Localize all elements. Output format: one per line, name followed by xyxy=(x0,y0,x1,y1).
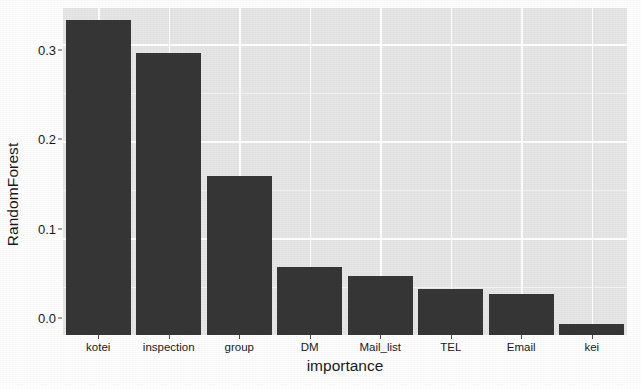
x-tick-mark xyxy=(521,335,522,339)
x-tick-label: Mail_list xyxy=(359,341,401,353)
x-tick-label: kei xyxy=(584,341,599,353)
x-tick-label: TEL xyxy=(440,341,461,353)
gridline-major-horizontal xyxy=(63,44,627,45)
bar xyxy=(66,20,131,335)
bar xyxy=(418,289,483,335)
x-tick-mark xyxy=(169,335,170,339)
y-axis-title: RandomForest xyxy=(0,0,26,389)
bar xyxy=(489,294,554,335)
y-axis-tick-group: 0.0 0.1 0.2 0.3 xyxy=(26,0,62,389)
x-tick-mark xyxy=(592,335,593,339)
x-tick-label: DM xyxy=(301,341,319,353)
x-tick-mark xyxy=(380,335,381,339)
gridline-major-vertical xyxy=(451,8,452,335)
x-tick-label: group xyxy=(225,341,254,353)
x-tick-label: Email xyxy=(507,341,536,353)
x-tick-mark xyxy=(451,335,452,339)
y-tick-label: 0.0 xyxy=(38,311,56,326)
bar xyxy=(136,53,201,335)
x-tick-mark xyxy=(239,335,240,339)
x-tick-mark xyxy=(98,335,99,339)
x-tick-label: inspection xyxy=(143,341,195,353)
bar xyxy=(348,276,413,335)
y-tick-mark xyxy=(58,139,62,140)
x-axis-title: importance xyxy=(63,357,627,375)
plot-panel xyxy=(63,8,627,335)
gridline-major-vertical xyxy=(521,8,522,335)
y-tick-mark xyxy=(58,318,62,319)
bar-chart: RandomForest 0.0 0.1 0.2 0.3 koteiinspec… xyxy=(0,0,641,389)
y-tick-label: 0.3 xyxy=(38,43,56,58)
y-tick-mark xyxy=(58,229,62,230)
x-tick-mark xyxy=(310,335,311,339)
bar xyxy=(277,267,342,335)
x-tick-label: kotei xyxy=(86,341,110,353)
y-tick-label: 0.1 xyxy=(38,222,56,237)
y-tick-mark xyxy=(58,50,62,51)
bar xyxy=(207,176,272,335)
bar xyxy=(559,324,624,335)
gridline-major-vertical xyxy=(592,8,593,335)
y-tick-label: 0.2 xyxy=(38,132,56,147)
